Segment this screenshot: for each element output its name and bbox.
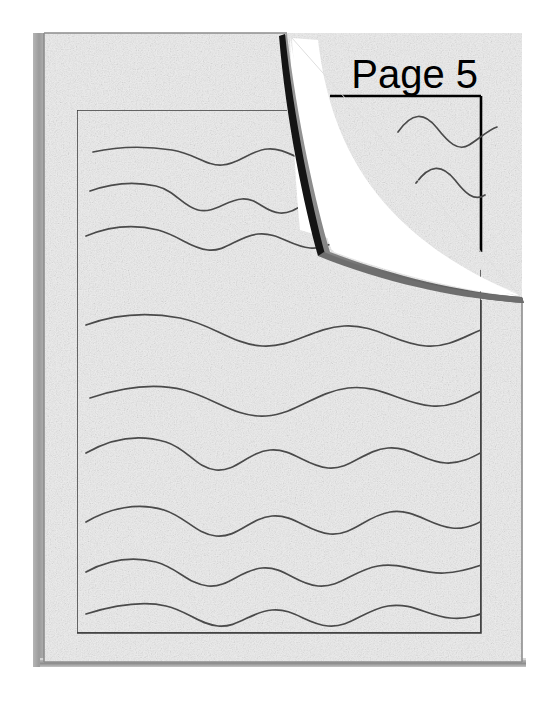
- spine-shadow-band: [33, 33, 44, 667]
- page-turn-illustration: Page 5: [0, 0, 551, 708]
- page-artwork-svg: Page 5: [0, 0, 551, 708]
- illustration-stage: Page 5: [0, 0, 551, 708]
- next-page-title: Page 5: [351, 52, 478, 96]
